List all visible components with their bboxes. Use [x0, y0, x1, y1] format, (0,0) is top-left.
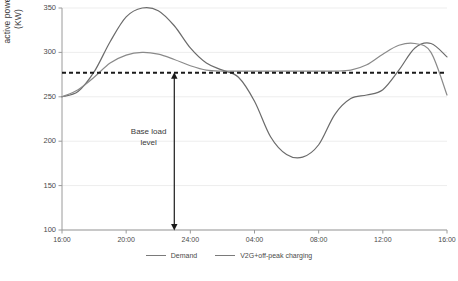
- y-tick-label: 100: [20, 225, 56, 234]
- base-load-level-annotation: Base load level: [117, 126, 181, 148]
- y-tick-label: 300: [20, 47, 56, 56]
- x-tick-label: 16:00: [37, 236, 87, 243]
- y-tick-label: 200: [20, 136, 56, 145]
- chart-legend: Demand V2G+off-peak charging: [0, 252, 458, 259]
- x-tick-label: 04:00: [230, 236, 280, 243]
- y-tick-label: 150: [20, 181, 56, 190]
- x-tick-label: 24:00: [165, 236, 215, 243]
- x-tick-label: 16:00: [422, 236, 458, 243]
- x-tick-label: 12:00: [358, 236, 408, 243]
- chart-container: active power (KW) 100150200250300350 16:…: [0, 0, 458, 281]
- y-tick-label: 250: [20, 92, 56, 101]
- legend-label-demand: Demand: [171, 252, 197, 259]
- legend-line-icon-v2g: [215, 255, 235, 256]
- legend-item-demand: Demand: [146, 252, 197, 259]
- x-tick-label: 08:00: [294, 236, 344, 243]
- x-tick-label: 20:00: [101, 236, 151, 243]
- legend-label-v2g: V2G+off-peak charging: [240, 252, 312, 259]
- y-tick-label: 350: [20, 3, 56, 12]
- series-line-v2g: [62, 43, 447, 97]
- legend-item-v2g: V2G+off-peak charging: [215, 252, 312, 259]
- legend-line-icon-demand: [146, 255, 166, 256]
